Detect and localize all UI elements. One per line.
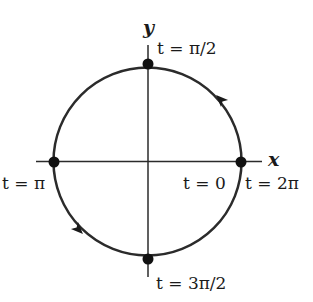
point-t-3pi-over-2 [143,254,154,265]
point-t-pi-over-2 [143,59,154,70]
label-t-pi: t = π [2,173,45,193]
y-axis-label: y [142,16,156,38]
label-t-3pi-over-2: t = 3π/2 [156,273,226,293]
arrow-upper-right-icon [213,92,229,108]
label-t-two-pi: t = 2π [245,173,299,193]
label-t-zero: t = 0 [183,173,226,193]
unit-circle-diagram: y x t = π/2 t = π t = 0 t = 2π t = 3π/2 [0,0,313,302]
x-axis-label: x [267,148,280,170]
point-t-pi [49,157,60,168]
label-t-pi-over-2: t = π/2 [157,38,217,58]
point-t-zero [236,157,247,168]
